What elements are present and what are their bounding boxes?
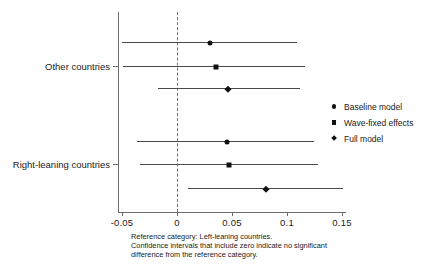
estimate-marker-square bbox=[213, 64, 218, 69]
x-tick-3 bbox=[287, 212, 288, 216]
caption-line-2: Confidence intervals that include zero i… bbox=[131, 241, 327, 250]
x-tick-label-4: 0.15 bbox=[332, 217, 351, 228]
circle-marker-icon bbox=[329, 104, 339, 109]
legend: Baseline model Wave-fixed effects Full m… bbox=[329, 100, 413, 148]
x-tick-label-0: -0.05 bbox=[111, 217, 134, 228]
legend-item-baseline-model: Baseline model bbox=[329, 100, 413, 113]
y-tick-0 bbox=[113, 66, 118, 67]
legend-label-full-model: Full model bbox=[344, 134, 383, 144]
estimate-marker-diamond bbox=[224, 85, 230, 91]
y-tick-1 bbox=[113, 164, 118, 165]
estimate-marker-circle bbox=[224, 139, 229, 144]
caption-line-3: difference from the reference category. bbox=[131, 250, 327, 259]
legend-item-full-model: Full model bbox=[329, 132, 413, 145]
figure-caption: Reference category: Left-leaning countri… bbox=[131, 232, 327, 260]
x-tick-4 bbox=[342, 212, 343, 216]
x-tick-2 bbox=[232, 212, 233, 216]
legend-item-wave-fixed-effects: Wave-fixed effects bbox=[329, 116, 413, 129]
y-category-label-1: Right-leaning countries bbox=[13, 159, 110, 170]
x-tick-0 bbox=[122, 212, 123, 216]
x-tick-label-2: 0.05 bbox=[222, 217, 241, 228]
x-tick-label-1: 0 bbox=[174, 217, 179, 228]
estimate-marker-square bbox=[226, 162, 231, 167]
x-tick-label-3: 0.1 bbox=[280, 217, 294, 228]
estimate-marker-circle bbox=[208, 40, 213, 45]
square-marker-icon bbox=[329, 120, 339, 125]
legend-label-wave-fixed-effects: Wave-fixed effects bbox=[344, 118, 413, 128]
y-category-label-0: Other countries bbox=[45, 61, 110, 72]
caption-line-1: Reference category: Left-leaning countri… bbox=[131, 232, 327, 241]
estimate-marker-diamond bbox=[263, 185, 269, 191]
y-axis-line bbox=[118, 12, 119, 212]
x-tick-1 bbox=[177, 212, 178, 216]
forest-plot-figure: -0.0500.050.10.15 Other countriesRight-l… bbox=[0, 0, 444, 264]
diamond-marker-icon bbox=[329, 136, 339, 140]
legend-label-baseline-model: Baseline model bbox=[344, 102, 402, 112]
